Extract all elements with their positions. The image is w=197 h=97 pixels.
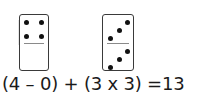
- equation-text: (4 – 0) + (3 x 3) =13: [2, 73, 184, 95]
- pip: [125, 49, 130, 54]
- domino-3-3: [102, 14, 134, 71]
- pip: [117, 28, 122, 33]
- domino-divider: [107, 43, 129, 44]
- domino-4-0: [19, 14, 49, 71]
- pip: [108, 36, 113, 41]
- pip: [24, 34, 29, 39]
- pip: [39, 34, 44, 39]
- domino-divider: [24, 43, 44, 44]
- pip: [39, 20, 44, 25]
- pip: [125, 20, 130, 25]
- pip: [117, 57, 122, 62]
- pip: [24, 20, 29, 25]
- pip: [108, 65, 113, 70]
